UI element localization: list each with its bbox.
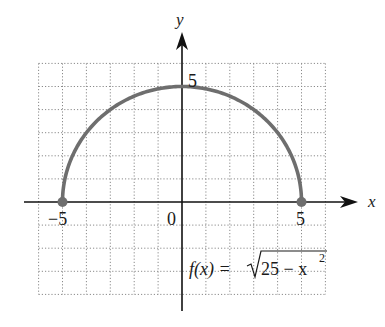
y-axis-label: y [174, 10, 184, 29]
endpoint-left [58, 197, 68, 207]
x-tick-label-neg5: −5 [48, 209, 67, 229]
formula-lhs: f(x) = [189, 259, 231, 280]
x-tick-label-0: 0 [167, 209, 176, 229]
x-tick-label-5: 5 [296, 209, 305, 229]
y-tick-label-5: 5 [188, 71, 197, 91]
formula-radicand: 25 − x [261, 259, 307, 279]
formula-exponent: 2 [319, 251, 325, 265]
function-formula: f(x) = 25 − x 2 [189, 251, 327, 280]
x-axis-label: x [367, 192, 376, 211]
endpoint-right [297, 197, 307, 207]
function-graph: x y −5 0 5 5 f(x) = 25 − x 2 [0, 0, 385, 327]
